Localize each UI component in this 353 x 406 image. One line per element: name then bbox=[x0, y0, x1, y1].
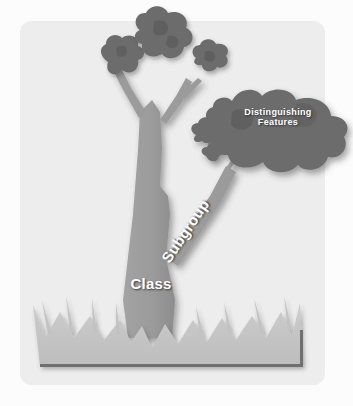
label-features-line-2: Features bbox=[258, 117, 298, 127]
illustration-stage: Class Subgroup Distinguishing Features bbox=[0, 0, 353, 406]
label-features-line-1: Distinguishing bbox=[244, 107, 311, 117]
label-distinguishing-features: Distinguishing Features bbox=[229, 107, 327, 127]
label-class: Class bbox=[112, 276, 190, 293]
tree-diagram-graphic bbox=[0, 0, 353, 406]
